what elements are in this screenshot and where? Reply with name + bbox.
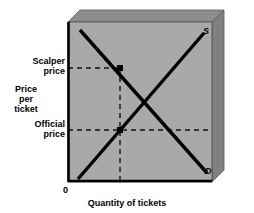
official-price-label: Official price xyxy=(3,119,65,139)
y-axis-title: Price per ticket xyxy=(4,84,48,114)
x-axis-title: Quantity of tickets xyxy=(0,198,254,208)
demand-curve-label: D xyxy=(205,166,212,176)
official-price-point-marker xyxy=(117,127,123,133)
panel-top-bevel xyxy=(68,10,224,22)
origin-label: 0 xyxy=(63,185,68,195)
panel-right-bevel xyxy=(212,10,224,182)
scalper-price-point-marker xyxy=(117,65,123,71)
supply-curve-label: S xyxy=(203,26,209,36)
scalper-price-label: Scalper price xyxy=(3,56,65,76)
plot-panel xyxy=(68,22,212,182)
